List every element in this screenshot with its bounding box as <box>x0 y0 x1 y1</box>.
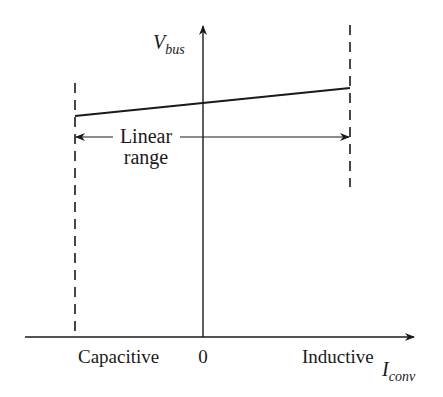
capacitive-label: Capacitive <box>78 346 159 367</box>
linear-range-label-line2: range <box>124 146 169 169</box>
x-axis-label: Iconv <box>381 358 416 384</box>
characteristic-line <box>75 88 350 116</box>
origin-label: 0 <box>198 346 208 367</box>
linear-range-label-line1: Linear <box>120 125 173 147</box>
vi-characteristic-diagram: Vbus Linear range Capacitive 0 Inductive… <box>0 0 443 397</box>
y-axis-label: Vbus <box>153 31 185 57</box>
inductive-label: Inductive <box>302 346 374 367</box>
